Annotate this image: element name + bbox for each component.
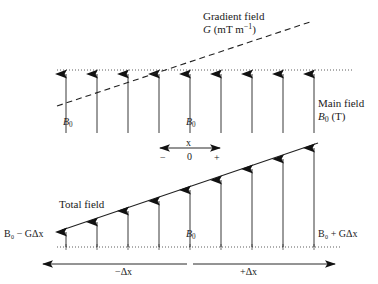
main-field-label-line1: Main field [318, 97, 364, 110]
b0-label-lower-middle: B0 [186, 228, 196, 240]
gradient-symbol: G [203, 23, 211, 35]
gradient-field-label-line1: Gradient field [203, 10, 264, 23]
x-negative-sign-label: − [160, 152, 166, 164]
b0-label-upper-middle: B0 [186, 116, 196, 128]
main-field-group [57, 22, 352, 133]
b0-subscript: 0 [192, 121, 196, 129]
gradient-field-label: Gradient field G (mT m−1) [203, 10, 264, 36]
b0-subscript: 0 [69, 121, 73, 129]
main-field-symbol: B [318, 110, 325, 122]
gradient-units-exponent: −1 [244, 22, 252, 31]
main-field-label: Main field B0 (T) [318, 97, 364, 123]
gradient-units-close: ) [252, 23, 256, 35]
main-field-units: (T) [329, 110, 346, 122]
b0-label-upper-left: B0 [63, 116, 73, 128]
main-field-label-line2: B0 (T) [318, 110, 364, 123]
gradient-field-line [57, 22, 310, 106]
delta-x-positive-label: +Δx [240, 266, 257, 278]
b0-plus-gdx-label: B₀ + GΔx [318, 228, 357, 240]
gradient-units-open: (mT m [214, 23, 244, 35]
b0-subscript: 0 [192, 233, 196, 241]
x-axis-label: x [186, 137, 191, 149]
total-field-label: Total field [59, 198, 104, 211]
delta-x-negative-label: −Δx [115, 266, 132, 278]
b0-minus-gdx-label: B₀ − GΔx [4, 228, 43, 240]
mri-gradient-field-figure: Gradient field G (mT m−1) Main field B0 … [0, 0, 378, 284]
total-field-group [57, 143, 340, 250]
main-field-subscript: 0 [325, 115, 329, 124]
x-zero-label: 0 [187, 151, 192, 163]
x-positive-sign-label: + [214, 152, 220, 164]
gradient-field-label-line2: G (mT m−1) [203, 23, 264, 36]
